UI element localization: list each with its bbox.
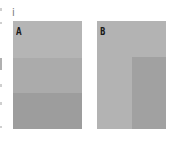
- panel-a-band-bottom: [13, 93, 82, 129]
- edge-mark: [0, 126, 2, 128]
- panel-a: A: [13, 21, 82, 129]
- panel-a-label: A: [16, 26, 22, 37]
- panel-b: B: [97, 21, 166, 129]
- panel-b-label: B: [100, 26, 105, 37]
- panel-a-band-top: [13, 21, 82, 58]
- edge-mark: [0, 8, 2, 11]
- panel-b-region: [132, 57, 166, 129]
- figure-index-label: i: [12, 7, 15, 18]
- left-edge-marks: [0, 0, 4, 150]
- edge-mark: [0, 22, 2, 24]
- edge-mark: [0, 84, 2, 87]
- edge-mark: [0, 58, 2, 70]
- panel-a-band-middle: [13, 58, 82, 93]
- edge-mark: [0, 102, 2, 105]
